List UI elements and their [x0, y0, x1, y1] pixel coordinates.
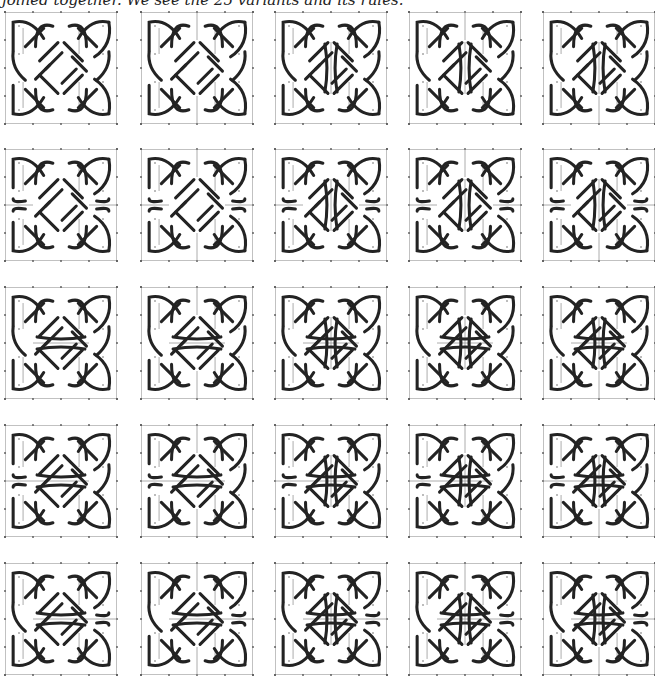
knot-tile: [409, 563, 521, 675]
knot-tile: [275, 287, 387, 399]
celtic-knot-diagram: [141, 287, 253, 399]
knot-tile: [543, 425, 655, 537]
celtic-knot-diagram: [275, 563, 387, 675]
knot-tile: [5, 287, 117, 399]
knot-tile: [141, 12, 253, 124]
knot-tile: [409, 425, 521, 537]
celtic-knot-diagram: [543, 425, 655, 537]
knot-tile: [543, 563, 655, 675]
celtic-knot-diagram: [275, 287, 387, 399]
knot-tile: [5, 149, 117, 261]
celtic-knot-diagram: [5, 287, 117, 399]
celtic-knot-diagram: [275, 149, 387, 261]
knot-tile: [409, 287, 521, 399]
knot-tile: [141, 425, 253, 537]
celtic-knot-diagram: [409, 12, 521, 124]
celtic-knot-diagram: [543, 563, 655, 675]
celtic-knot-diagram: [5, 149, 117, 261]
celtic-knot-diagram: [409, 563, 521, 675]
knot-tile: [141, 287, 253, 399]
figure-caption: joined together. We see the 25 variants …: [2, 0, 404, 9]
celtic-knot-diagram: [5, 12, 117, 124]
celtic-knot-diagram: [141, 563, 253, 675]
knot-tile: [543, 149, 655, 261]
celtic-knot-diagram: [543, 287, 655, 399]
knot-tile: [5, 12, 117, 124]
knot-tile: [275, 149, 387, 261]
celtic-knot-diagram: [141, 149, 253, 261]
knot-tile: [409, 149, 521, 261]
knot-tile: [275, 425, 387, 537]
celtic-knot-diagram: [5, 425, 117, 537]
celtic-knot-diagram: [141, 12, 253, 124]
knot-tile: [5, 425, 117, 537]
celtic-knot-diagram: [275, 425, 387, 537]
celtic-knot-diagram: [543, 149, 655, 261]
knot-tile: [543, 12, 655, 124]
knot-tile: [275, 563, 387, 675]
celtic-knot-diagram: [543, 12, 655, 124]
knot-tile: [5, 563, 117, 675]
celtic-knot-diagram: [409, 149, 521, 261]
knot-tile: [141, 563, 253, 675]
knot-tile: [275, 12, 387, 124]
knot-tile: [543, 287, 655, 399]
knot-tile: [409, 12, 521, 124]
celtic-knot-diagram: [409, 425, 521, 537]
celtic-knot-diagram: [141, 425, 253, 537]
celtic-knot-diagram: [275, 12, 387, 124]
knot-tile: [141, 149, 253, 261]
celtic-knot-diagram: [409, 287, 521, 399]
celtic-knot-diagram: [5, 563, 117, 675]
